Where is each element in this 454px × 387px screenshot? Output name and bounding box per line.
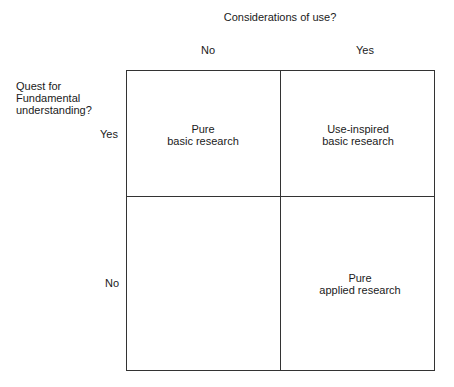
cell-line2: applied research [283,284,437,296]
cell-line1: Pure [283,272,437,284]
grid-vertical-divider [280,70,281,371]
cell-pure-basic-research: Pure basic research [126,123,280,147]
cell-pure-applied-research: Pure applied research [283,272,437,296]
cell-line2: basic research [281,135,435,147]
row-header-yes: Yes [58,128,118,140]
row-axis-title: Quest for Fundamental understanding? [16,80,126,116]
grid-horizontal-divider [126,196,435,197]
cell-line1: Use-inspired [281,123,435,135]
row-axis-title-line2: Fundamental [16,92,126,104]
column-header-yes: Yes [285,44,445,56]
cell-line2: basic research [126,135,280,147]
cell-line1: Pure [126,123,280,135]
column-axis-title: Considerations of use? [0,11,454,23]
cell-use-inspired-basic-research: Use-inspired basic research [281,123,435,147]
row-axis-title-line1: Quest for [16,80,126,92]
row-header-no: No [59,277,119,289]
row-axis-title-line3: understanding? [16,104,126,116]
column-header-no: No [128,44,288,56]
